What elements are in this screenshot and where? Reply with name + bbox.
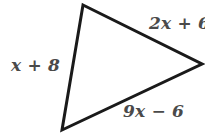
triangle-figure: x + 8 2x + 6 9x − 6 [0,0,205,135]
side-label-top-right: 2x + 6 [149,15,205,32]
side-label-left: x + 8 [11,57,60,74]
side-label-bottom: 9x − 6 [123,103,184,120]
